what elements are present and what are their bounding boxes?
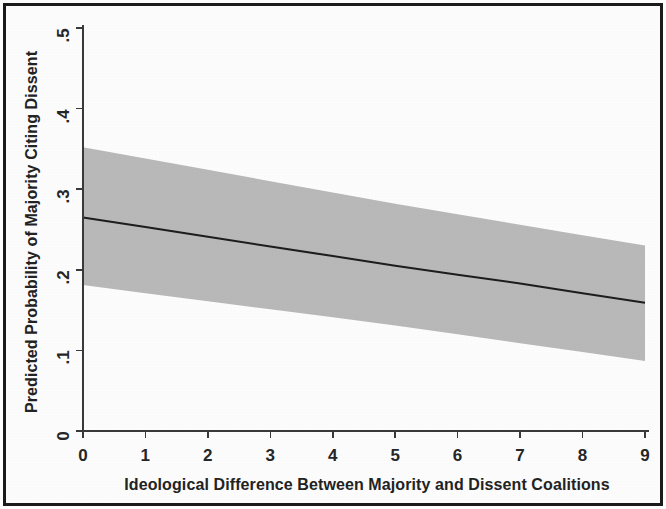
x-tick-label: 7 — [515, 446, 525, 466]
y-tick-label: .3 — [54, 189, 74, 204]
plot-canvas — [6, 6, 666, 509]
x-tick-label: 6 — [453, 446, 463, 466]
confidence-band-area — [83, 147, 645, 361]
y-tick-label: 0 — [54, 431, 74, 441]
x-tick-label: 5 — [390, 446, 400, 466]
scanned-figure-frame: 0123456789 0.1.2.3.4.5 Ideological Diffe… — [3, 3, 663, 506]
x-tick-label: 0 — [78, 446, 88, 466]
x-tick-label: 4 — [328, 446, 338, 466]
x-axis-title: Ideological Difference Between Majority … — [124, 476, 609, 494]
x-tick-label: 8 — [578, 446, 588, 466]
y-tick-label: .1 — [54, 350, 74, 365]
y-axis-title: Predicted Probability of Majority Citing… — [23, 51, 41, 413]
confidence-interval-band — [83, 147, 645, 361]
x-tick-label: 1 — [141, 446, 151, 466]
y-tick-label: .4 — [54, 109, 74, 124]
y-tick-label: .2 — [54, 270, 74, 285]
figure-root: 0123456789 0.1.2.3.4.5 Ideological Diffe… — [0, 0, 666, 509]
x-tick-label: 3 — [266, 446, 276, 466]
x-tick-label: 9 — [640, 446, 650, 466]
x-tick-label: 2 — [203, 446, 213, 466]
y-tick-label: .5 — [54, 28, 74, 43]
